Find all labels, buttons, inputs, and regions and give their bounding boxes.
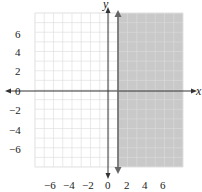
y-tick: 4	[15, 46, 21, 58]
y-tick: 2	[15, 65, 21, 77]
y-tick: 0	[15, 85, 21, 97]
y-tick: −6	[9, 143, 21, 155]
y-tick: −4	[9, 124, 21, 136]
x-tick: 0	[105, 179, 111, 191]
x-axis-label: x	[195, 84, 202, 98]
x-tick: −6	[44, 179, 56, 191]
y-axis-label: y	[102, 0, 109, 11]
x-tick: −2	[82, 179, 94, 191]
y-tick: −2	[9, 104, 21, 116]
inequality-graph: x y 6 4 2 0 −2 −4 −6 −6 −4 −2 0 2 4 6	[0, 0, 202, 192]
y-tick: 6	[15, 28, 21, 40]
x-tick: −4	[63, 179, 75, 191]
x-tick: 6	[160, 179, 166, 191]
x-tick: 4	[142, 179, 148, 191]
x-tick: 2	[124, 179, 130, 191]
x-tick-labels: −6 −4 −2 0 2 4 6	[44, 179, 166, 191]
